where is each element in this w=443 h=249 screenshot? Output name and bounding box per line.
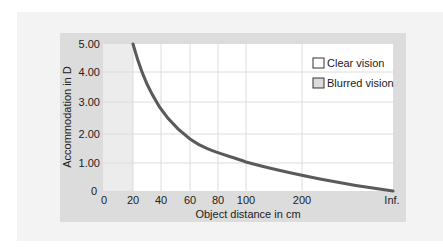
legend-label-blurred: Blurred vision	[327, 77, 394, 89]
svg-text:4.00: 4.00	[79, 66, 100, 78]
svg-text:40: 40	[155, 194, 167, 206]
legend-swatch-blurred	[313, 78, 324, 88]
svg-text:5.00: 5.00	[79, 38, 100, 50]
legend-label-clear: Clear vision	[327, 57, 384, 69]
legend-swatch-clear	[313, 58, 324, 68]
y-axis-ticks: 5.00 4.00 3.00 2.00 1.00 0	[79, 38, 100, 197]
y-axis-title: Accommodation in D	[61, 66, 73, 168]
x-axis-title: Object distance in cm	[195, 208, 300, 220]
svg-text:100: 100	[237, 194, 255, 206]
svg-text:200: 200	[293, 194, 311, 206]
blurred-region	[103, 44, 133, 191]
svg-text:80: 80	[212, 194, 224, 206]
svg-text:2.00: 2.00	[79, 128, 100, 140]
svg-text:0: 0	[101, 194, 107, 206]
x-axis-ticks: 0 20 40 60 80 100 200 Inf.	[101, 194, 400, 206]
svg-text:3.00: 3.00	[79, 96, 100, 108]
svg-text:0: 0	[91, 185, 97, 197]
svg-text:60: 60	[184, 194, 196, 206]
svg-text:20: 20	[127, 194, 139, 206]
accommodation-chart: Clear vision Blurred vision 5.00 4.00 3.…	[0, 0, 443, 249]
svg-text:Inf.: Inf.	[384, 194, 399, 206]
svg-text:1.00: 1.00	[79, 157, 100, 169]
